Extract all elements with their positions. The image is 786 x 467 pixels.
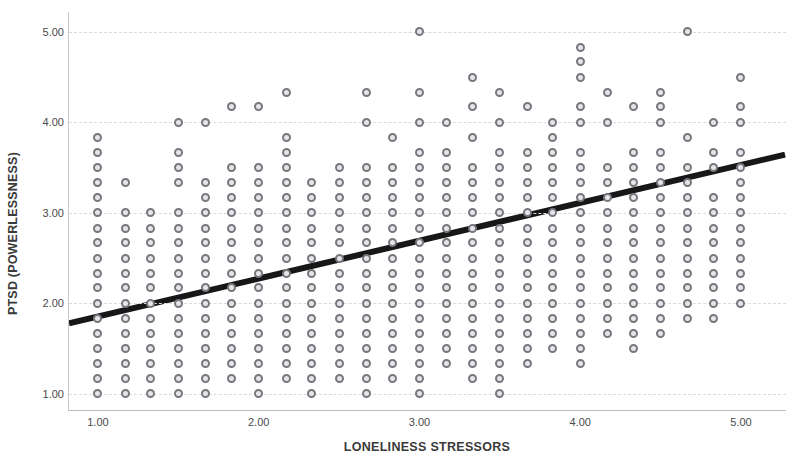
data-point	[576, 299, 585, 308]
data-point	[335, 374, 344, 383]
data-point	[576, 163, 585, 172]
data-point	[174, 314, 183, 323]
data-point	[629, 148, 638, 157]
data-point	[282, 224, 291, 233]
data-point	[282, 359, 291, 368]
data-point	[576, 269, 585, 278]
data-point	[629, 314, 638, 323]
data-point	[201, 269, 210, 278]
data-point	[282, 238, 291, 247]
data-point	[254, 224, 263, 233]
plot-canvas	[69, 12, 786, 410]
data-point	[709, 118, 718, 127]
data-point	[121, 389, 130, 398]
data-point	[307, 224, 316, 233]
data-point	[201, 254, 210, 263]
data-point	[121, 329, 130, 338]
data-point	[415, 163, 424, 172]
data-point	[362, 224, 371, 233]
data-point	[603, 193, 612, 202]
data-point	[174, 299, 183, 308]
data-point	[495, 148, 504, 157]
data-point	[656, 224, 665, 233]
data-point	[388, 329, 397, 338]
data-point	[548, 254, 557, 263]
data-point	[415, 193, 424, 202]
data-point	[415, 88, 424, 97]
data-point	[388, 133, 397, 142]
data-point	[335, 314, 344, 323]
data-point	[629, 193, 638, 202]
data-point	[548, 329, 557, 338]
data-point	[201, 329, 210, 338]
data-point	[254, 299, 263, 308]
data-point	[335, 299, 344, 308]
data-point	[282, 178, 291, 187]
data-point	[388, 299, 397, 308]
y-axis-tick-label: 3.00	[4, 207, 64, 219]
data-point	[201, 224, 210, 233]
data-point	[227, 163, 236, 172]
data-point	[388, 254, 397, 263]
data-point	[576, 57, 585, 66]
data-point	[415, 374, 424, 383]
x-axis-tick-label: 4.00	[550, 416, 610, 428]
data-point	[468, 374, 477, 383]
data-point	[603, 88, 612, 97]
data-point	[227, 269, 236, 278]
data-point	[282, 254, 291, 263]
data-point	[523, 238, 532, 247]
data-point	[388, 283, 397, 292]
data-point	[468, 299, 477, 308]
data-point	[709, 254, 718, 263]
data-point	[468, 344, 477, 353]
data-point	[442, 254, 451, 263]
data-point	[307, 329, 316, 338]
data-point	[174, 254, 183, 263]
data-point	[174, 238, 183, 247]
data-point	[523, 224, 532, 233]
data-point	[656, 269, 665, 278]
y-axis-tick-label: 2.00	[4, 297, 64, 309]
data-point	[495, 224, 504, 233]
data-point	[656, 118, 665, 127]
data-point	[227, 224, 236, 233]
data-point	[603, 269, 612, 278]
data-point	[523, 193, 532, 202]
data-point	[201, 193, 210, 202]
data-point	[629, 299, 638, 308]
data-point	[576, 43, 585, 52]
data-point	[227, 254, 236, 263]
data-point	[174, 224, 183, 233]
data-point	[388, 208, 397, 217]
data-point	[468, 329, 477, 338]
data-point	[174, 374, 183, 383]
data-point	[335, 238, 344, 247]
data-point	[576, 208, 585, 217]
data-point	[362, 299, 371, 308]
data-point	[282, 299, 291, 308]
data-point	[362, 254, 371, 263]
plot-area: 5.004.003.002.001.001.002.003.004.005.00	[68, 12, 786, 411]
data-point	[362, 374, 371, 383]
data-point	[121, 299, 130, 308]
data-point	[576, 224, 585, 233]
x-axis-tick-label: 2.00	[229, 416, 289, 428]
data-point	[468, 73, 477, 82]
data-point	[468, 254, 477, 263]
scatter-plot-figure: PTSD (POWERLESSNESS) 5.004.003.002.001.0…	[0, 0, 786, 467]
data-point	[362, 193, 371, 202]
data-point	[495, 329, 504, 338]
data-point	[442, 148, 451, 157]
data-point	[227, 299, 236, 308]
data-point	[121, 238, 130, 247]
data-point	[629, 344, 638, 353]
data-point	[576, 118, 585, 127]
data-point	[335, 359, 344, 368]
data-point	[282, 208, 291, 217]
data-point	[282, 329, 291, 338]
data-point	[629, 238, 638, 247]
data-point	[629, 269, 638, 278]
y-axis-tick-label: 4.00	[4, 116, 64, 128]
data-point	[335, 163, 344, 172]
